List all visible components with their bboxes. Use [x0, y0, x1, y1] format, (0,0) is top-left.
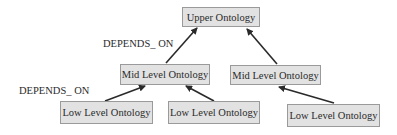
edge-label-depends-on-bottom: DEPENDS_ ON: [19, 85, 89, 96]
node-low-level-ontology-1: Low Level Ontology: [60, 101, 153, 124]
node-low-level-ontology-3: Low Level Ontology: [287, 104, 380, 127]
node-label: Low Level Ontology: [62, 107, 150, 118]
arrow-midright-to-upper: [247, 29, 277, 64]
arrow-low2-to-midleft: [186, 86, 214, 101]
node-upper-ontology: Upper Ontology: [182, 7, 260, 27]
node-mid-level-ontology-left: Mid Level Ontology: [120, 64, 210, 85]
node-label: Mid Level Ontology: [122, 69, 208, 80]
node-low-level-ontology-2: Low Level Ontology: [168, 101, 260, 124]
node-mid-level-ontology-right: Mid Level Ontology: [230, 65, 321, 85]
arrow-low3-to-midright: [279, 87, 334, 103]
edge-label-depends-on-top: DEPENDS_ ON: [103, 38, 173, 49]
node-label: Mid Level Ontology: [232, 70, 318, 81]
node-label: Low Level Ontology: [289, 110, 377, 121]
node-label: Upper Ontology: [187, 12, 256, 23]
node-label: Low Level Ontology: [170, 107, 258, 118]
arrow-low1-to-midleft: [105, 86, 145, 101]
